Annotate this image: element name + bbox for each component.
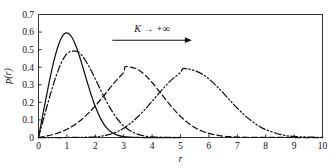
x-tick-label: 7 [235, 141, 240, 151]
y-tick-label: 0.3 [22, 80, 34, 90]
k-to-infinity-annotation-text: K → +∞ [133, 23, 170, 34]
x-tick-label: 1 [65, 141, 70, 151]
x-tick-label: 8 [263, 141, 268, 151]
y-tick-label: 0.6 [22, 27, 34, 37]
x-tick-label: 0 [36, 141, 41, 151]
y-tick-label: 0.5 [22, 45, 34, 55]
x-axis-label: r [179, 153, 183, 164]
chart-svg: 012345678910 00.10.20.30.40.50.60.7 K → … [0, 0, 335, 168]
y-tick-label: 0 [29, 133, 34, 143]
x-tick-label: 9 [292, 141, 297, 151]
x-tick-label: 2 [93, 141, 98, 151]
y-axis-label: p(r) [2, 68, 14, 85]
x-tick-label: 4 [150, 141, 155, 151]
y-tick-label: 0.7 [22, 10, 34, 20]
x-tick-label: 6 [207, 141, 212, 151]
y-tick-label: 0.1 [22, 115, 34, 125]
x-tick-label: 10 [318, 141, 328, 151]
x-tick-label: 3 [121, 141, 126, 151]
x-tick-label: 5 [178, 141, 183, 151]
figure-container: 012345678910 00.10.20.30.40.50.60.7 K → … [0, 0, 335, 168]
y-tick-label: 0.2 [22, 98, 34, 108]
y-tick-label: 0.4 [22, 63, 34, 73]
